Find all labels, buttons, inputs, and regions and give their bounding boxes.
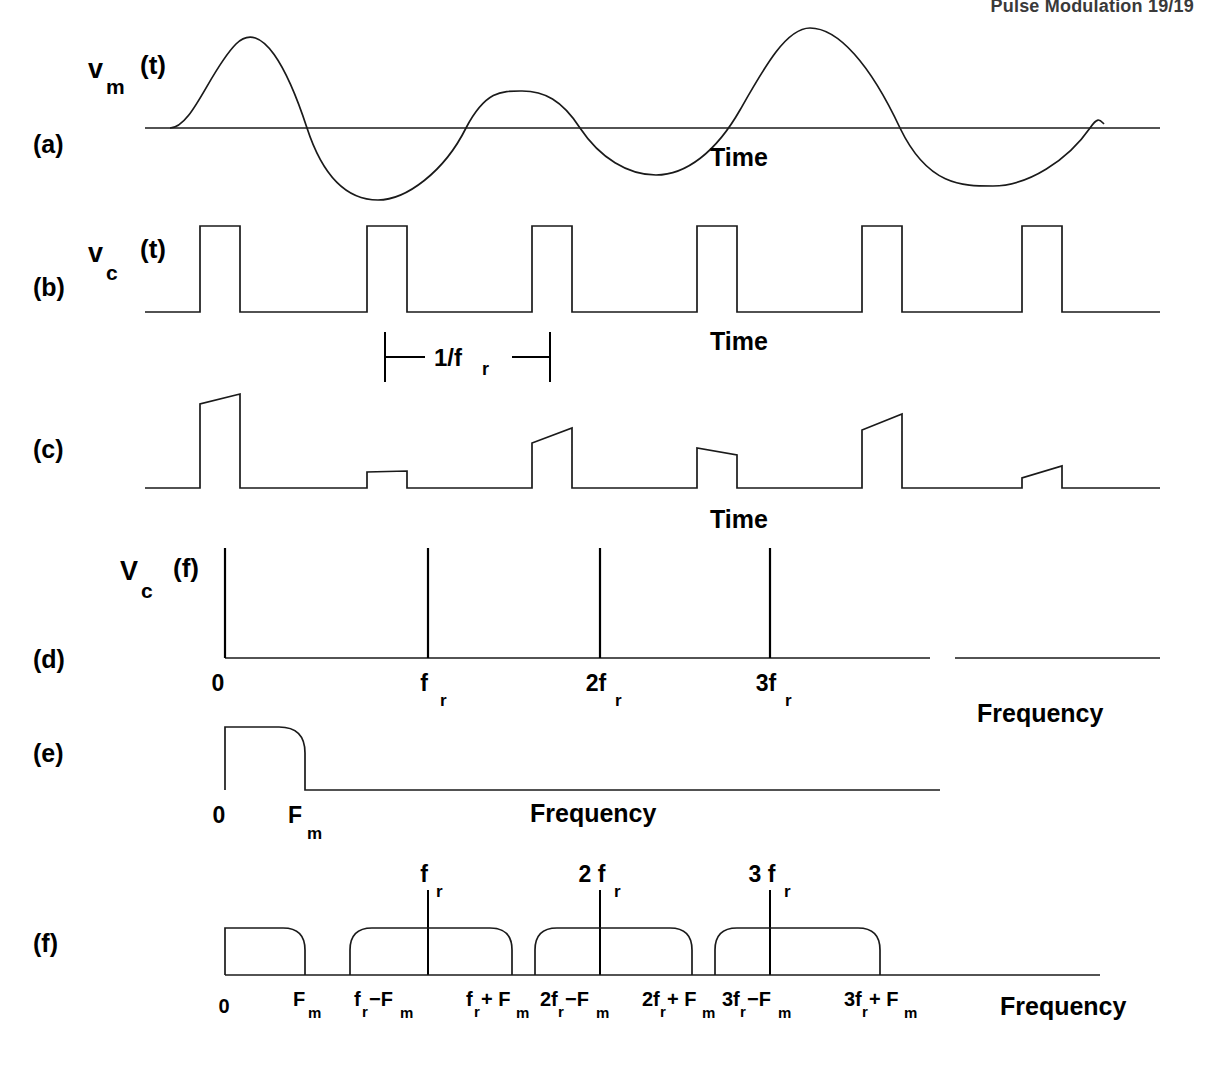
svg-text:+ F: + F: [869, 988, 898, 1010]
panel-f-tick-0: 0: [218, 995, 229, 1017]
panel-c-label: (c): [33, 435, 64, 463]
panel-a-signal-main: v: [88, 54, 103, 84]
panel-d-signal-sub: c: [141, 579, 153, 602]
panel-e-tick-fm-sub: m: [307, 824, 322, 843]
panel-c: (c) Time: [33, 394, 1160, 533]
svg-text:3f: 3f: [722, 988, 740, 1010]
panel-e-tick-fm-main: F: [288, 802, 302, 828]
svg-text:r: r: [740, 1003, 746, 1020]
panel-c-axis-label: Time: [710, 505, 768, 533]
panel-f-marker-2fr-sub: r: [614, 882, 621, 901]
panel-d-tick-0: 0: [212, 670, 225, 696]
svg-text:m: m: [778, 1004, 791, 1021]
svg-text:+ F: + F: [667, 988, 696, 1010]
svg-text:m: m: [702, 1004, 715, 1021]
panel-e-tick-0: 0: [213, 802, 226, 828]
panel-d: (d) V c (f) 0 f r 2f r 3f r Frequency: [33, 548, 1160, 727]
svg-text:f: f: [466, 988, 473, 1010]
svg-text:r: r: [862, 1003, 868, 1020]
panel-b-pulse-train: [145, 226, 1160, 312]
pulse-modulation-figure: (a) v m (t) Time (b) v c (t) Time 1/f r: [0, 0, 1208, 1079]
panel-d-tick-3fr-main: 3f: [756, 670, 777, 696]
svg-text:m: m: [596, 1004, 609, 1021]
panel-f-lobe-first-harmonic: [350, 928, 512, 975]
svg-text:2f: 2f: [642, 988, 660, 1010]
panel-f-tick-3fr-minus-fm: 3f r −F m: [722, 988, 791, 1021]
panel-d-label: (d): [33, 645, 65, 673]
panel-f-marker-3fr-main: 3 f: [749, 861, 776, 887]
panel-f: f r 2 f r 3 f r (f) 0 F m: [33, 861, 1127, 1021]
panel-b: (b) v c (t) Time 1/f r: [33, 226, 1160, 382]
panel-b-axis-label: Time: [710, 327, 768, 355]
panel-f-marker-3fr-sub: r: [784, 882, 791, 901]
panel-b-label: (b): [33, 273, 65, 301]
svg-text:m: m: [308, 1004, 321, 1021]
panel-f-axis-label: Frequency: [1000, 992, 1127, 1020]
panel-e-baseband-lobe: [225, 727, 940, 790]
panel-d-tick-2fr-sub: r: [615, 691, 622, 710]
svg-text:f: f: [354, 988, 361, 1010]
panel-b-signal-arg: (t): [140, 234, 166, 264]
panel-f-tick-fr-plus-fm: f r + F m: [466, 988, 529, 1021]
panel-d-signal-main: V: [120, 556, 138, 586]
panel-f-lobe-baseband: [225, 928, 305, 975]
svg-text:−F: −F: [369, 988, 393, 1010]
panel-f-tick-2fr-plus-fm: 2f r + F m: [642, 988, 715, 1021]
svg-text:+ F: + F: [481, 988, 510, 1010]
svg-text:m: m: [400, 1004, 413, 1021]
panel-f-marker-2fr-main: 2 f: [579, 861, 606, 887]
panel-c-pam-waveform: [145, 394, 1160, 488]
panel-b-signal-main: v: [88, 238, 103, 268]
panel-e-label: (e): [33, 739, 64, 767]
panel-d-tick-fr-sub: r: [440, 691, 447, 710]
svg-text:r: r: [558, 1003, 564, 1020]
figure-root: Pulse Modulation 19/19 (a) v m (t) Time …: [0, 0, 1208, 1079]
panel-d-tick-2fr-main: 2f: [586, 670, 607, 696]
svg-text:−F: −F: [747, 988, 771, 1010]
panel-d-tick-3fr-sub: r: [785, 691, 792, 710]
period-label-sub: r: [482, 359, 489, 379]
svg-text:m: m: [516, 1004, 529, 1021]
panel-a-modulating-waveform: [170, 28, 1104, 200]
svg-text:r: r: [660, 1003, 666, 1020]
panel-f-tick-3fr-plus-fm: 3f r + F m: [844, 988, 917, 1021]
svg-text:3f: 3f: [844, 988, 862, 1010]
panel-d-axis-label: Frequency: [977, 699, 1104, 727]
panel-f-tick-fm: F m: [293, 988, 321, 1021]
panel-f-marker-fr-sub: r: [436, 882, 443, 901]
svg-text:r: r: [362, 1003, 368, 1020]
panel-e-axis-label: Frequency: [530, 799, 657, 827]
panel-f-tick-2fr-minus-fm: 2f r −F m: [540, 988, 609, 1021]
panel-a-signal-sub: m: [106, 75, 125, 98]
panel-f-tick-fr-minus-fm: f r −F m: [354, 988, 413, 1021]
panel-a-label: (a): [33, 130, 64, 158]
panel-d-tick-fr-main: f: [420, 670, 428, 696]
panel-f-lobe-third-harmonic: [715, 928, 880, 975]
svg-text:2f: 2f: [540, 988, 558, 1010]
panel-f-marker-fr-main: f: [420, 861, 428, 887]
svg-text:r: r: [474, 1003, 480, 1020]
svg-text:F: F: [293, 988, 305, 1010]
panel-a: (a) v m (t) Time: [33, 28, 1160, 200]
period-label-main: 1/f: [434, 344, 463, 371]
panel-d-signal-arg: (f): [173, 553, 199, 583]
svg-text:−F: −F: [565, 988, 589, 1010]
panel-f-label: (f): [33, 929, 58, 957]
panel-a-axis-label: Time: [710, 143, 768, 171]
panel-b-signal-sub: c: [106, 261, 118, 284]
svg-text:m: m: [904, 1004, 917, 1021]
panel-b-period-annotation: 1/f r: [385, 332, 550, 382]
panel-e: (e) 0 F m Frequency: [33, 727, 940, 843]
panel-f-lobe-second-harmonic: [535, 928, 692, 975]
panel-a-signal-arg: (t): [140, 50, 166, 80]
